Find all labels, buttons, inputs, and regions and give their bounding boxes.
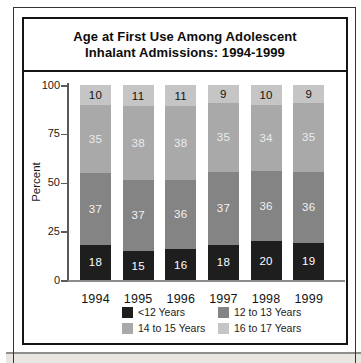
bar-segment: 37 <box>123 180 154 251</box>
bar-segment: 38 <box>123 106 154 179</box>
stacked-bar: 11383715 <box>123 85 154 280</box>
legend-item: 16 to 17 Years <box>218 322 301 334</box>
segment-value-label: 9 <box>305 88 312 100</box>
x-tick-label: 1996 <box>159 292 203 306</box>
stacked-bar: 10343620 <box>251 85 282 280</box>
bar-segment: 36 <box>165 180 196 250</box>
segment-value-label: 10 <box>89 89 102 101</box>
legend-item: 12 to 13 Years <box>218 306 301 318</box>
legend-label: <12 Years <box>138 306 185 318</box>
segment-value-label: 11 <box>175 90 188 102</box>
y-tick-label: 25 <box>30 225 60 238</box>
segment-value-label: 37 <box>217 202 230 214</box>
legend-item: 14 to 15 Years <box>122 322 218 334</box>
segment-value-label: 34 <box>259 132 272 144</box>
chart-title-line2: Inhalant Admissions: 1994-1999 <box>85 45 285 61</box>
bar-segment: 9 <box>208 85 239 103</box>
y-tick-label: 75 <box>30 127 60 140</box>
segment-value-label: 37 <box>131 209 144 221</box>
stacked-bar: 11383616 <box>165 85 196 280</box>
segment-value-label: 11 <box>132 90 145 102</box>
legend-swatch <box>122 307 133 318</box>
bar-segment: 11 <box>165 85 196 106</box>
bar-segment: 16 <box>165 249 196 280</box>
bar-segment: 36 <box>251 171 282 241</box>
bar-segment: 19 <box>293 243 324 280</box>
segment-value-label: 18 <box>89 256 102 268</box>
segment-value-label: 19 <box>302 255 315 267</box>
bar-segment: 35 <box>80 105 111 173</box>
x-tick-label: 1995 <box>116 292 160 306</box>
chart-title-line1: Age at First Use Among Adolescent <box>73 29 296 45</box>
chart-legend: <12 Years12 to 13 Years14 to 15 Years16 … <box>122 306 301 334</box>
bar-segment: 34 <box>251 105 282 171</box>
y-tick-mark <box>61 183 68 185</box>
legend-label: 14 to 15 Years <box>138 322 205 334</box>
legend-label: 16 to 17 Years <box>234 322 301 334</box>
bar-segment: 20 <box>251 241 282 280</box>
segment-value-label: 35 <box>89 133 102 145</box>
y-tick-label: 0 <box>30 274 60 287</box>
bar-segment: 10 <box>251 85 282 105</box>
stacked-bar: 10353718 <box>80 85 111 280</box>
bar-segment: 10 <box>80 85 111 105</box>
stacked-bar: 9353619 <box>293 85 324 280</box>
x-tick-label: 1998 <box>244 292 288 306</box>
segment-value-label: 35 <box>217 131 230 143</box>
bar-segment: 18 <box>80 245 111 280</box>
y-tick-mark <box>61 85 68 87</box>
bar-segment: 38 <box>165 106 196 179</box>
segment-value-label: 16 <box>174 259 187 271</box>
bar-segment: 35 <box>208 103 239 172</box>
x-tick-label: 1997 <box>201 292 245 306</box>
segment-value-label: 20 <box>259 255 272 267</box>
x-tick-label: 1999 <box>287 292 331 306</box>
bar-segment: 11 <box>123 85 154 106</box>
bar-segment: 37 <box>80 173 111 245</box>
segment-value-label: 18 <box>217 256 230 268</box>
stacked-bar: 9353718 <box>208 85 239 280</box>
segment-value-label: 38 <box>131 137 144 149</box>
x-axis-line <box>67 280 345 282</box>
bar-segment: 37 <box>208 172 239 245</box>
bar-segment: 15 <box>123 251 154 280</box>
bar-segment: 9 <box>293 85 324 103</box>
y-tick-label: 50 <box>30 176 60 189</box>
legend-label: 12 to 13 Years <box>234 306 301 318</box>
y-tick-label: 100 <box>30 79 60 92</box>
segment-value-label: 15 <box>131 260 144 272</box>
bar-segment: 35 <box>293 103 324 172</box>
segment-value-label: 35 <box>302 131 315 143</box>
y-tick-mark <box>61 280 68 282</box>
legend-swatch <box>122 323 133 334</box>
segment-value-label: 36 <box>174 208 187 220</box>
legend-swatch <box>218 307 229 318</box>
segment-value-label: 37 <box>89 203 102 215</box>
legend-swatch <box>218 323 229 334</box>
bar-segment: 36 <box>293 172 324 243</box>
legend-item: <12 Years <box>122 306 218 318</box>
segment-value-label: 10 <box>259 89 272 101</box>
segment-value-label: 38 <box>174 137 187 149</box>
y-tick-mark <box>61 134 68 136</box>
document-page: Age at First Use Among Adolescent Inhala… <box>0 0 361 363</box>
x-tick-label: 1994 <box>74 292 118 306</box>
segment-value-label: 36 <box>259 200 272 212</box>
bar-segment: 18 <box>208 245 239 280</box>
y-tick-mark <box>61 231 68 233</box>
chart-title: Age at First Use Among Adolescent Inhala… <box>24 19 346 72</box>
segment-value-label: 36 <box>302 201 315 213</box>
segment-value-label: 9 <box>220 88 227 100</box>
